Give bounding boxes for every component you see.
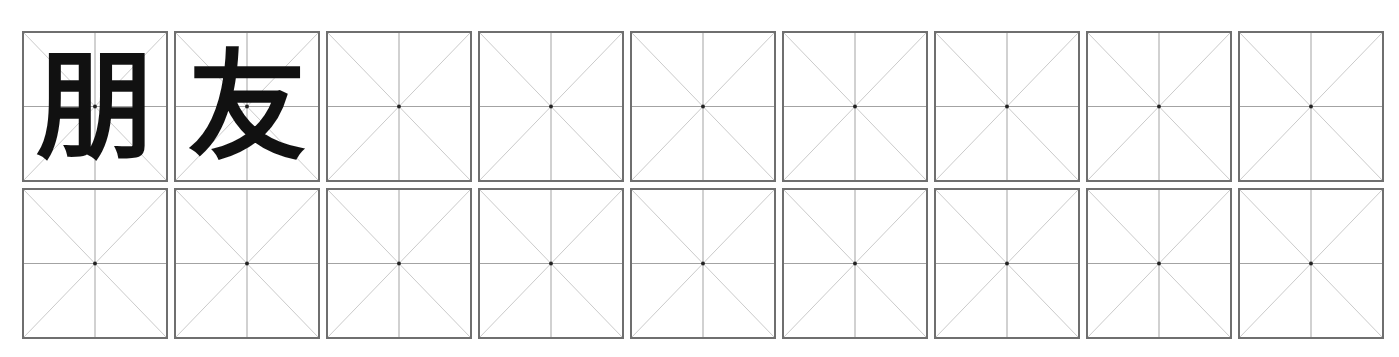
practice-character	[1088, 190, 1230, 337]
practice-character	[632, 190, 774, 337]
cropped-header-text	[0, 0, 1399, 4]
practice-character	[480, 33, 622, 180]
grid-cell[interactable]	[630, 188, 776, 339]
grid-cell[interactable]	[174, 188, 320, 339]
grid-cell[interactable]	[1086, 31, 1232, 182]
grid-cell[interactable]	[326, 31, 472, 182]
practice-character	[176, 190, 318, 337]
practice-character	[480, 190, 622, 337]
grid-cell[interactable]	[22, 188, 168, 339]
grid-row-2	[22, 188, 1384, 341]
grid-cell[interactable]	[630, 31, 776, 182]
grid-cell[interactable]	[478, 31, 624, 182]
grid-cell[interactable]	[1238, 31, 1384, 182]
practice-character: 友	[176, 33, 318, 180]
practice-character	[1240, 190, 1382, 337]
practice-character	[1088, 33, 1230, 180]
practice-character	[784, 190, 926, 337]
grid-cell[interactable]	[934, 188, 1080, 339]
practice-character	[936, 33, 1078, 180]
grid-row-1: 朋 友	[22, 31, 1384, 184]
grid-cell[interactable]	[1238, 188, 1384, 339]
grid-cell[interactable]	[934, 31, 1080, 182]
practice-character	[24, 190, 166, 337]
grid-cell[interactable]	[478, 188, 624, 339]
grid-cell[interactable]: 友	[174, 31, 320, 182]
grid-cell[interactable]	[782, 188, 928, 339]
practice-character	[784, 33, 926, 180]
grid-cell[interactable]	[326, 188, 472, 339]
practice-character	[328, 190, 470, 337]
practice-character	[936, 190, 1078, 337]
practice-character	[632, 33, 774, 180]
grid-cell[interactable]: 朋	[22, 31, 168, 182]
grid-cell[interactable]	[1086, 188, 1232, 339]
practice-character	[1240, 33, 1382, 180]
practice-character: 朋	[24, 33, 166, 180]
practice-character	[328, 33, 470, 180]
grid-cell[interactable]	[782, 31, 928, 182]
